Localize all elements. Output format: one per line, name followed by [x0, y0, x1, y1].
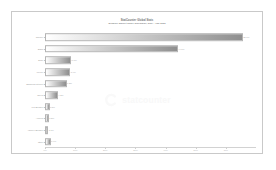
x-tick-label: 50%	[194, 149, 198, 152]
category-label: Android	[36, 117, 44, 120]
bar-value-label: 1.1%	[49, 129, 54, 132]
bar-value-label: 8.7%	[72, 59, 77, 62]
category-label: Opera	[37, 94, 43, 97]
plot-area: Chrome65.6%Safari44.1%Edge8.7%Firefox8.4…	[45, 30, 256, 147]
bar-row: UC Browser1.5%	[45, 101, 256, 113]
bar-value-label: 1.3%	[49, 117, 54, 120]
bar-value-label: 65.6%	[243, 36, 249, 39]
bar[interactable]: 44.1%	[45, 45, 178, 53]
bar-row: Samsung Internet7.2%	[45, 78, 256, 90]
x-tick-mark	[45, 147, 46, 149]
bar-value-label: 1.5%	[50, 105, 55, 108]
category-label: Chrome	[36, 36, 44, 39]
x-tick-label: 60%	[224, 149, 228, 152]
category-label: Yandex Browser	[28, 129, 44, 132]
x-tick-mark	[135, 147, 136, 149]
x-tick-label: 40%	[163, 149, 167, 152]
bar[interactable]: 7.2%	[45, 80, 67, 88]
x-tick-mark	[105, 147, 106, 149]
bar-row: Opera4.3%	[45, 90, 256, 102]
x-tick-label: 20%	[103, 149, 107, 152]
bar[interactable]: 8.4%	[45, 68, 70, 76]
bar-value-label: 4.3%	[58, 94, 63, 97]
bar-row: Edge8.7%	[45, 55, 256, 67]
bar[interactable]: 65.6%	[45, 34, 243, 42]
chart-page: StatCounter Global Stats Browser Market …	[0, 0, 276, 170]
x-tick-label: 0%	[43, 149, 46, 152]
x-tick-mark	[166, 147, 167, 149]
bar-row: Firefox8.4%	[45, 66, 256, 78]
title-block: StatCounter Global Stats Browser Market …	[12, 19, 262, 26]
bar[interactable]: 4.3%	[45, 92, 58, 100]
bar[interactable]: 1.5%	[45, 103, 50, 111]
bar-row: Yandex Browser1.1%	[45, 124, 256, 136]
category-label: Firefox	[37, 71, 44, 74]
bar-value-label: 7.2%	[67, 82, 72, 85]
category-label: Other	[38, 140, 43, 143]
bar-value-label: 8.4%	[71, 71, 76, 74]
category-label: Safari	[38, 47, 44, 50]
chart-subtitle: Browser Market Share Worldwide, 2024 - J…	[12, 22, 262, 25]
bar-row: Safari44.1%	[45, 43, 256, 55]
bar[interactable]: 1.3%	[45, 115, 49, 123]
bar-row: Android1.3%	[45, 113, 256, 125]
chart-frame: StatCounter Global Stats Browser Market …	[11, 11, 263, 154]
bar[interactable]: 1.9%	[45, 138, 51, 146]
bar[interactable]: 8.7%	[45, 57, 71, 65]
bar-value-label: 1.9%	[51, 140, 56, 143]
x-tick-mark	[196, 147, 197, 149]
x-tick-label: 10%	[73, 149, 77, 152]
category-label: UC Browser	[32, 105, 44, 108]
category-label: Edge	[38, 59, 43, 62]
bar-value-label: 44.1%	[178, 47, 184, 50]
category-label: Samsung Internet	[26, 82, 43, 85]
chart-title: StatCounter Global Stats	[12, 19, 262, 22]
x-tick-mark	[226, 147, 227, 149]
x-tick-mark	[75, 147, 76, 149]
x-axis-line	[45, 147, 256, 148]
x-tick-label: 30%	[133, 149, 137, 152]
bar-row: Other1.9%	[45, 136, 256, 148]
x-axis: 0%10%20%30%40%50%60%	[45, 147, 256, 157]
bar-row: Chrome65.6%	[45, 32, 256, 44]
bar[interactable]: 1.1%	[45, 126, 48, 134]
